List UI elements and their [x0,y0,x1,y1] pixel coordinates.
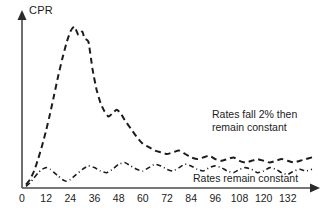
x-tick-label: 60 [137,192,149,204]
x-tick-label: 84 [185,192,197,204]
rates-fall-annotation-line2: remain constant [212,121,297,134]
x-tick-label: 36 [89,192,101,204]
x-tick-label: 0 [19,192,25,204]
x-tick-label: 96 [209,192,221,204]
rates-fall-annotation: Rates fall 2% then remain constant [212,108,297,134]
cpr-chart-figure: CPR 01224364860728496108120132 Rates fal… [0,0,333,217]
x-axis-tick-labels: 01224364860728496108120132 [0,192,333,208]
x-tick-label: 12 [40,192,52,204]
x-tick-label: 24 [64,192,76,204]
rates-fall-annotation-line1: Rates fall 2% then [212,108,297,121]
x-tick-label: 120 [255,192,273,204]
x-tick-label: 132 [279,192,297,204]
series-rates-fall-2pct-line [26,26,312,184]
x-tick-label: 48 [113,192,125,204]
x-tick-label: 72 [161,192,173,204]
x-tick-label: 108 [231,192,249,204]
y-axis-arrow-icon [18,10,27,20]
rates-constant-annotation-line1: Rates remain constant [193,172,298,185]
rates-constant-annotation: Rates remain constant [193,172,298,185]
y-axis-label: CPR [29,4,53,16]
